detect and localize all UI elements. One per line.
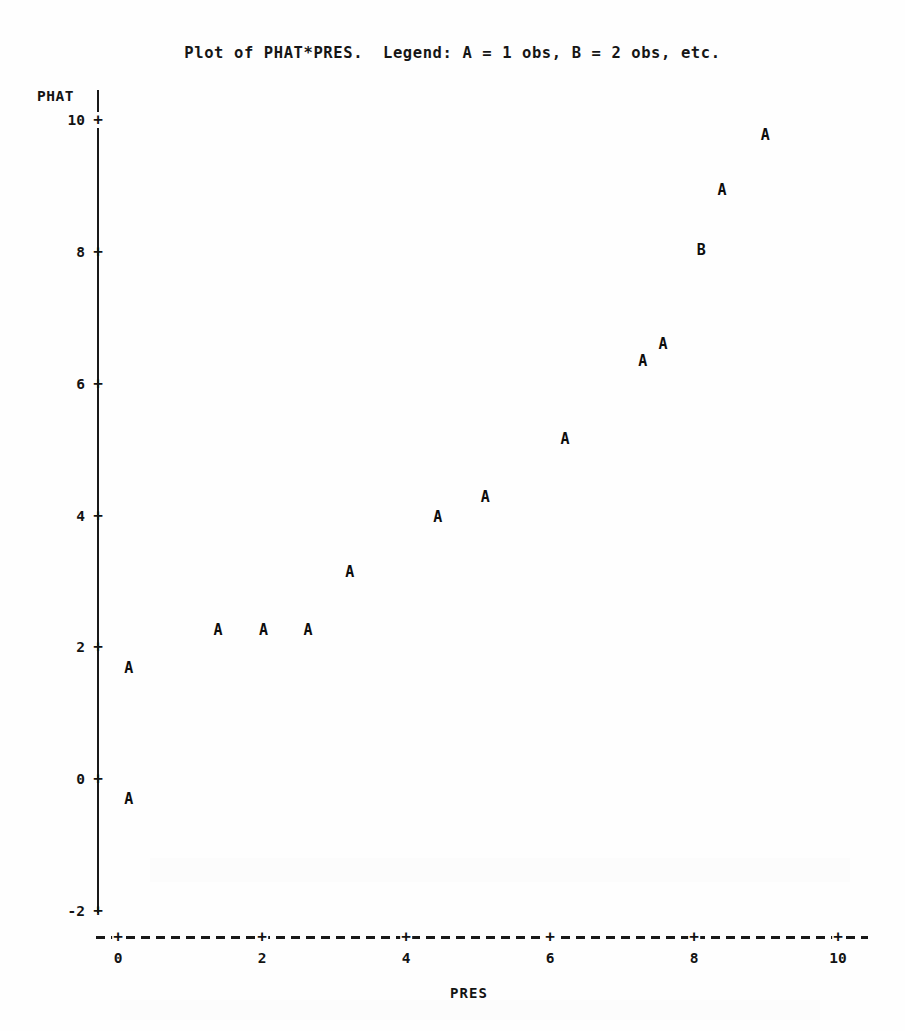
data-point: A [481,490,490,505]
data-point: B [697,243,706,258]
y-axis-spine-stub [97,90,99,112]
data-point: A [761,127,770,142]
x-tick-mark: + [832,929,844,945]
x-tick-label: 8 [690,951,699,966]
data-point: A [214,623,223,638]
y-tick-mark: + [93,244,103,260]
page-title: Plot of PHAT*PRES. Legend: A = 1 obs, B … [0,44,905,62]
y-tick-label: 2 [76,640,85,655]
data-point: A [659,337,668,352]
scan-ghost-band [120,1000,820,1020]
y-axis-title: PHAT [37,88,74,104]
y-tick-label: 4 [76,508,85,523]
x-tick-label: 10 [829,951,846,966]
y-tick-label: 8 [76,245,85,260]
plot-page: Plot of PHAT*PRES. Legend: A = 1 obs, B … [0,0,905,1031]
x-tick-mark: + [688,929,700,945]
data-point: A [433,509,442,524]
x-tick-mark: + [400,929,412,945]
x-tick-label: 6 [546,951,555,966]
y-tick-mark: + [93,639,103,655]
x-tick-label: 0 [114,951,123,966]
x-tick-label: 4 [402,951,411,966]
x-tick-label: 2 [258,951,267,966]
data-point: A [718,183,727,198]
x-axis-line [96,936,868,939]
x-tick-mark: + [256,929,268,945]
data-point: A [259,623,268,638]
x-axis-title: PRES [450,985,488,1001]
y-tick-label: -2 [68,904,85,919]
x-tick-mark: + [544,929,556,945]
data-point: A [124,791,133,806]
data-point: A [304,623,313,638]
y-tick-label: 0 [76,772,85,787]
y-tick-label: 6 [76,377,85,392]
x-tick-mark: + [112,929,124,945]
data-point: A [124,661,133,676]
scan-ghost-band [150,858,850,882]
y-tick-mark: + [93,376,103,392]
data-point: A [345,565,354,580]
y-tick-mark: + [93,903,103,919]
data-point: A [638,354,647,369]
y-tick-mark: + [93,771,103,787]
data-point: A [561,432,570,447]
y-tick-label: 10 [68,113,85,128]
y-tick-mark: + [93,508,103,524]
y-tick-mark: + [93,112,103,128]
